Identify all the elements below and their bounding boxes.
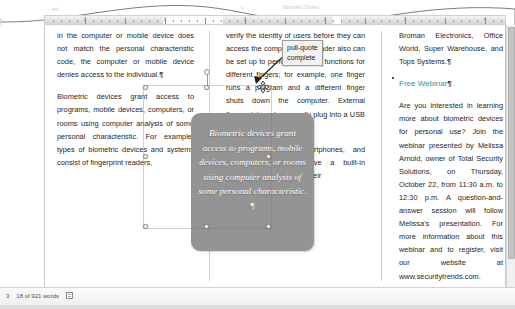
pull-quote-tooltip: pull-quote complete xyxy=(282,40,323,66)
word-document-window: ert s WordArt Styles Arrar xyxy=(0,0,515,309)
paragraph: Are you interested in learning more abou… xyxy=(399,99,503,282)
pull-quote-selection-frame xyxy=(143,85,272,229)
ruler-number: 2 xyxy=(324,17,327,22)
scrollbar-thumb[interactable] xyxy=(508,27,515,259)
resize-handle-bottom-left[interactable] xyxy=(143,224,148,229)
pilcrow-mark: ¶ xyxy=(447,57,451,66)
proofing-errors-icon[interactable] xyxy=(66,292,73,299)
resize-handle-bottom-center[interactable] xyxy=(204,224,209,229)
horizontal-ruler[interactable]: 2 1 1 2 3 4 xyxy=(44,15,506,25)
resize-handle-top-left[interactable] xyxy=(143,85,148,90)
ruler-ticks xyxy=(45,16,505,24)
vertical-scrollbar[interactable] xyxy=(506,25,515,287)
resize-handle-top-center[interactable] xyxy=(204,85,209,90)
heading-free-webinar: Free Webinar¶ xyxy=(399,77,503,90)
column-divider xyxy=(381,31,382,281)
resize-handle-middle-left[interactable] xyxy=(143,154,148,159)
tooltip-line-1: pull-quote xyxy=(287,43,318,53)
document-left-gutter xyxy=(0,25,44,287)
ruler-number: 1 xyxy=(244,17,247,22)
ruler-number: 3 xyxy=(404,17,407,22)
pilcrow-mark: ¶ xyxy=(447,79,451,88)
paragraph: in the computer or mobile device does no… xyxy=(57,29,194,81)
tooltip-line-2: complete xyxy=(287,53,318,63)
paragraph: Broman Electronics, Office World, Super … xyxy=(399,29,503,68)
pilcrow-mark: ¶ xyxy=(159,70,163,79)
rotation-handle[interactable] xyxy=(204,69,210,75)
status-page-number[interactable]: 3 xyxy=(6,293,9,299)
resize-handle-middle-right[interactable] xyxy=(266,154,271,159)
text-column-3[interactable]: Broman Electronics, Office World, Super … xyxy=(399,29,503,287)
resize-handle-bottom-right[interactable] xyxy=(266,224,271,229)
bullet-icon xyxy=(392,77,394,79)
window-bottom-strip xyxy=(0,305,515,309)
ruler-number: 4 xyxy=(484,17,487,22)
status-word-count[interactable]: 18 of 921 words xyxy=(16,293,59,299)
move-cursor-icon xyxy=(256,80,270,94)
ruler-number: 1 xyxy=(164,17,167,22)
rotation-handle-stem xyxy=(207,74,208,85)
ruler-number: 2 xyxy=(84,17,87,22)
